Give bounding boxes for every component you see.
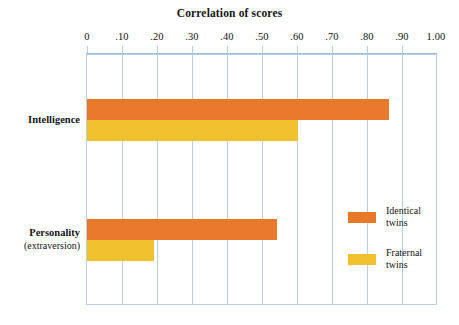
x-tick-label-20: .20 bbox=[150, 31, 163, 42]
x-tick-label-50: .50 bbox=[255, 31, 268, 42]
bar-intelligence-fraternal-twins bbox=[87, 120, 298, 141]
legend-swatch-identical-twins bbox=[348, 212, 376, 223]
bar-personality-fraternal-twins bbox=[87, 240, 154, 261]
gridline-70 bbox=[332, 55, 333, 304]
bar-intelligence-identical-twins bbox=[87, 99, 389, 120]
gridline-40 bbox=[227, 55, 228, 304]
gridline-20 bbox=[157, 55, 158, 304]
legend-item-fraternal-twins: Fraternal twins bbox=[348, 247, 453, 279]
x-tick-label-40: .40 bbox=[220, 31, 233, 42]
chart-title: Correlation of scores bbox=[0, 7, 459, 19]
legend-label-fraternal-twins: Fraternal twins bbox=[386, 247, 422, 270]
bar-personality-identical-twins bbox=[87, 219, 277, 240]
legend-label-fraternal-line1: Fraternal bbox=[386, 247, 422, 259]
x-tick-label-80: .80 bbox=[360, 31, 373, 42]
gridline-50 bbox=[262, 55, 263, 304]
x-tick-label-100: 1.00 bbox=[427, 31, 446, 42]
gridline-10 bbox=[122, 55, 123, 304]
x-tick-label-0: 0 bbox=[84, 31, 89, 42]
correlation-bar-chart: Correlation of scores 0 .10 .20 .30 .40 … bbox=[0, 0, 459, 325]
category-label-personality-secondary: (extraversion) bbox=[0, 239, 80, 252]
category-label-personality: Personality (extraversion) bbox=[0, 226, 80, 252]
gridline-30 bbox=[192, 55, 193, 304]
x-tick-label-60: .60 bbox=[290, 31, 303, 42]
gridline-60 bbox=[297, 55, 298, 304]
legend-label-identical-line1: Identical bbox=[386, 205, 421, 217]
category-label-personality-primary: Personality bbox=[0, 226, 80, 239]
legend-label-identical-twins: Identical twins bbox=[386, 205, 421, 228]
legend-item-identical-twins: Identical twins bbox=[348, 205, 453, 237]
x-tick-label-70: .70 bbox=[325, 31, 338, 42]
x-tick-label-10: .10 bbox=[115, 31, 128, 42]
category-label-intelligence-text: Intelligence bbox=[0, 113, 80, 126]
legend-label-identical-line2: twins bbox=[386, 217, 421, 229]
x-tick-label-30: .30 bbox=[185, 31, 198, 42]
category-label-intelligence: Intelligence bbox=[0, 113, 80, 126]
legend-label-fraternal-line2: twins bbox=[386, 259, 422, 271]
x-tick-label-90: .90 bbox=[395, 31, 408, 42]
legend-swatch-fraternal-twins bbox=[348, 254, 376, 265]
